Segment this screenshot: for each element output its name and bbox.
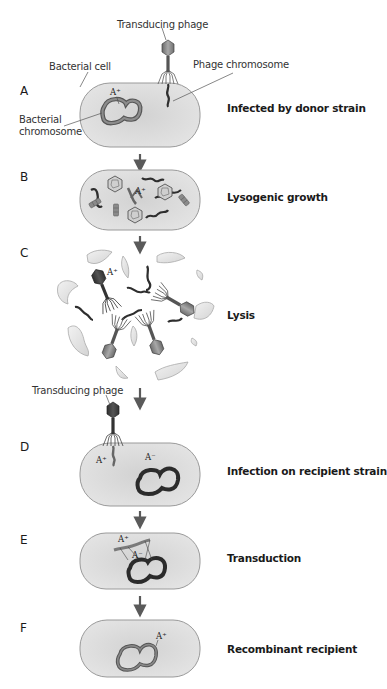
step-letter-a: A (20, 84, 28, 98)
step-f-graphic (80, 620, 200, 677)
step-d-graphic (80, 395, 200, 506)
label-transducing-phage: Transducing phage (117, 19, 208, 31)
allele-a-plus: A⁺ (135, 186, 146, 196)
step-letter-b: B (20, 170, 28, 184)
label-bacterial-chromosome-2: chromosome (19, 126, 82, 138)
step-e-graphic (80, 533, 200, 589)
step-a-graphic (64, 28, 233, 147)
allele-a-minus: A⁻ (145, 452, 156, 462)
label-bacterial-cell: Bacterial cell (49, 61, 111, 73)
label-transducing-phage: Transducing phage (32, 385, 123, 397)
caption-transduction: Transduction (227, 552, 301, 564)
step-letter-c: C (20, 246, 28, 260)
caption-recombinant-recipient: Recombinant recipient (227, 643, 357, 655)
allele-a-minus: A⁻ (132, 550, 143, 560)
label-phage-chromosome: Phage chromosome (193, 59, 289, 71)
allele-a-plus: A⁺ (110, 87, 121, 97)
caption-lysis: Lysis (227, 309, 255, 321)
step-b-graphic (80, 170, 200, 230)
allele-a-plus: A⁺ (107, 267, 118, 277)
transducing-phage (103, 402, 123, 446)
transducing-phage (158, 40, 178, 84)
step-letter-d: D (20, 440, 29, 454)
step-letter-e: E (20, 533, 28, 547)
label-bacterial-chromosome-1: Bacterial (19, 114, 62, 126)
phage-chromosome (167, 84, 169, 107)
allele-a-plus: A⁺ (96, 455, 107, 465)
step-c-graphic (57, 250, 214, 380)
allele-a-plus: A⁺ (118, 534, 129, 544)
caption-infected-by-donor: Infected by donor strain (227, 102, 366, 114)
injected-donor-dna (113, 446, 115, 466)
step-letter-f: F (20, 621, 27, 635)
caption-infection-on-recipient: Infection on recipient strain (227, 465, 387, 477)
caption-lysogenic-growth: Lysogenic growth (227, 191, 328, 203)
allele-a-plus: A⁺ (156, 631, 167, 641)
